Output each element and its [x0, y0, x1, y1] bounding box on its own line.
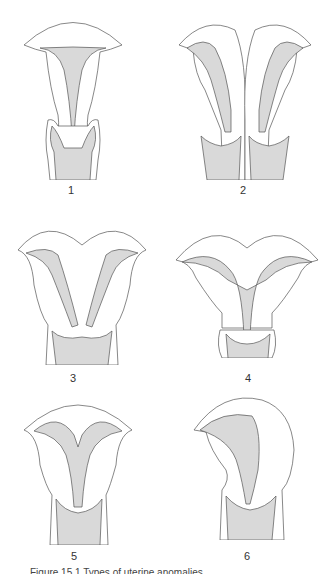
panel-label-3: 3 [63, 372, 83, 384]
panel-label-6: 6 [237, 550, 257, 562]
diagram-panel-4 [172, 218, 322, 358]
figure-caption: Figure 15.1 Types of uterine anomalies [30, 566, 330, 574]
panel-label-4: 4 [238, 372, 258, 384]
diagram-panel-1 [18, 20, 128, 180]
panel-label-2: 2 [233, 184, 253, 196]
panel-label-1: 1 [61, 184, 81, 196]
diagram-panel-3 [12, 215, 152, 365]
diagram-panel-2 [175, 20, 315, 180]
diagram-panel-5 [18, 395, 138, 545]
diagram-panel-6 [192, 390, 302, 540]
panel-label-5: 5 [64, 550, 84, 562]
